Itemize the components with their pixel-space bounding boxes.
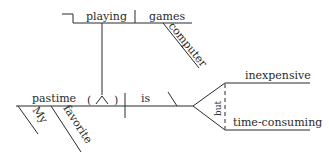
word-computer: computer bbox=[166, 20, 210, 70]
sentence-diagram: playing games computer ( ) pastime is My… bbox=[0, 0, 329, 160]
word-favorite: favorite bbox=[60, 103, 94, 146]
stem-foot bbox=[96, 96, 108, 104]
word-games: games bbox=[149, 10, 186, 23]
word-inexpensive: inexpensive bbox=[245, 69, 311, 82]
paren-open: ( bbox=[87, 94, 91, 107]
word-my: My bbox=[30, 104, 51, 126]
word-time-consuming: time-consuming bbox=[233, 116, 322, 129]
word-but: but bbox=[213, 100, 223, 116]
gerund-phrase-platform: playing games computer bbox=[62, 10, 210, 70]
word-is: is bbox=[141, 92, 151, 105]
word-playing: playing bbox=[86, 10, 127, 23]
paren-close: ) bbox=[114, 94, 118, 107]
complement-slash bbox=[168, 92, 177, 106]
